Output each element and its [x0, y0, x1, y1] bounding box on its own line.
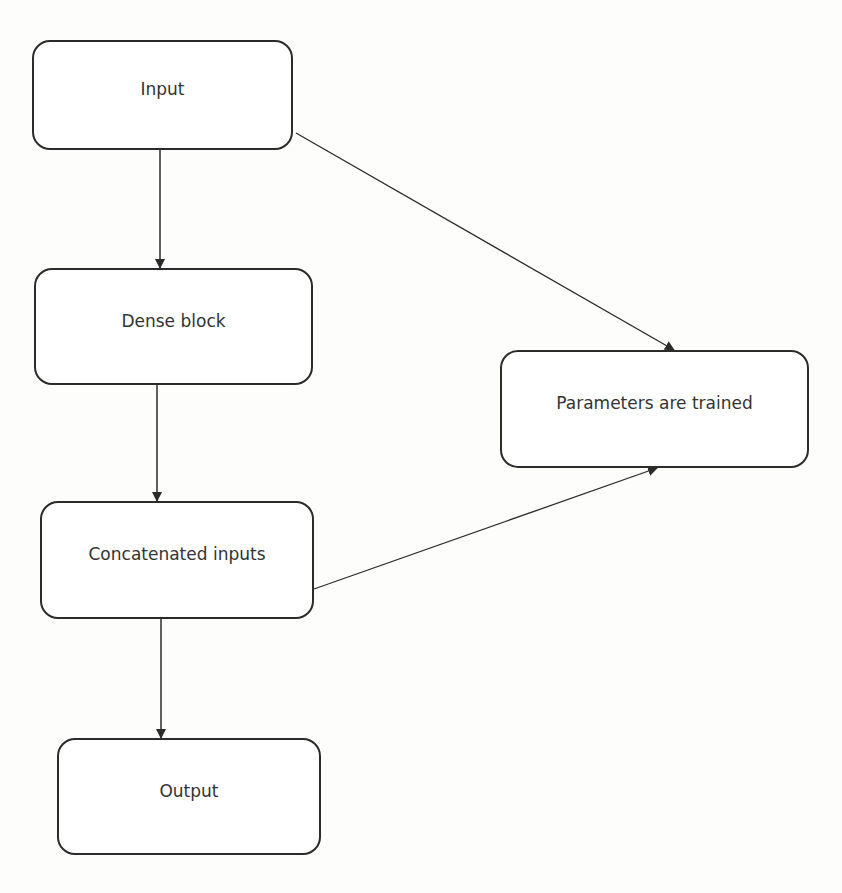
- node-parameters-trained-label: Parameters are trained: [556, 393, 752, 413]
- node-output-label: Output: [159, 781, 218, 801]
- node-concatenated-inputs: Concatenated inputs: [40, 501, 314, 619]
- node-output: Output: [57, 738, 321, 855]
- node-parameters-trained: Parameters are trained: [500, 350, 809, 468]
- node-input: Input: [32, 40, 293, 150]
- edge-concat-to-params: [314, 468, 657, 589]
- edge-input-to-params: [296, 133, 674, 350]
- node-concatenated-inputs-label: Concatenated inputs: [88, 544, 265, 564]
- node-input-label: Input: [140, 79, 184, 99]
- node-dense-block: Dense block: [34, 268, 313, 385]
- node-dense-block-label: Dense block: [121, 311, 225, 331]
- diagram-canvas: Input Dense block Concatenated inputs Ou…: [0, 0, 842, 893]
